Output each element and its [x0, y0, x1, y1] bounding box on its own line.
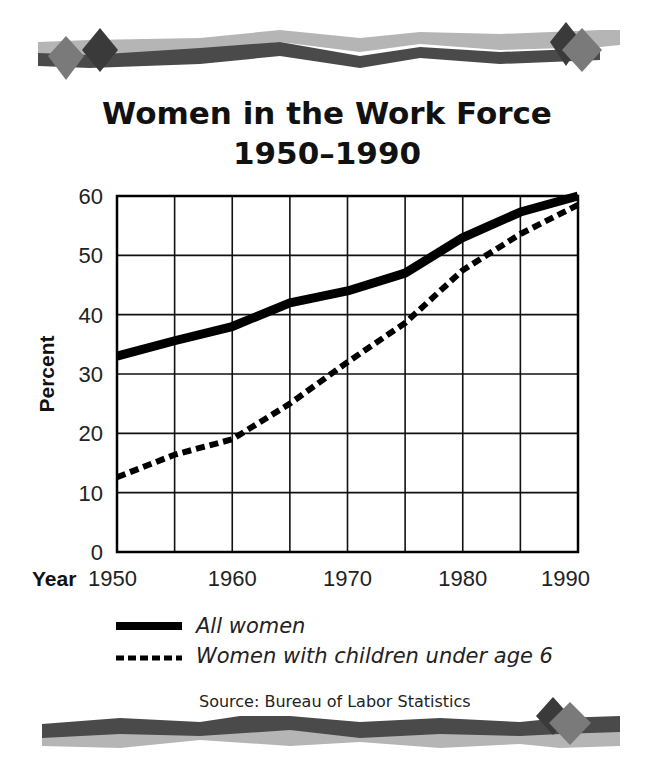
y-axis-label: Percent — [35, 335, 58, 412]
y-tick-label: 0 — [91, 540, 103, 565]
x-tick-label: 1990 — [541, 566, 590, 591]
y-tick-label: 60 — [79, 184, 103, 209]
chart-grid — [117, 196, 578, 552]
line-chart: 0102030405060 19501960197019801990 Perce… — [0, 180, 654, 600]
x-axis-label: Year — [32, 567, 76, 590]
x-tick-label: 1950 — [88, 566, 137, 591]
legend-item-all-women: All women — [116, 611, 553, 641]
legend: All women Women with children under age … — [116, 611, 553, 671]
x-tick-label: 1980 — [438, 566, 487, 591]
x-tick-label: 1960 — [208, 566, 257, 591]
legend-label: Women with children under age 6 — [196, 644, 553, 668]
chart-title: Women in the Work Force — [0, 94, 654, 132]
y-tick-label: 30 — [79, 362, 103, 387]
top-decorative-border — [0, 10, 654, 90]
solid-line-swatch-icon — [116, 611, 182, 641]
y-tick-label: 40 — [79, 303, 103, 328]
chart-subtitle: 1950–1990 — [0, 134, 654, 172]
legend-label: All women — [196, 614, 305, 638]
bottom-decorative-border — [0, 690, 654, 759]
y-tick-label: 10 — [79, 481, 103, 506]
y-axis-ticks: 0102030405060 — [79, 184, 103, 565]
legend-item-women-children: Women with children under age 6 — [116, 641, 553, 671]
y-tick-label: 20 — [79, 421, 103, 446]
x-axis-ticks: 19501960197019801990 — [88, 566, 590, 591]
x-tick-label: 1970 — [323, 566, 372, 591]
dashed-line-swatch-icon — [116, 641, 182, 671]
y-tick-label: 50 — [79, 243, 103, 268]
